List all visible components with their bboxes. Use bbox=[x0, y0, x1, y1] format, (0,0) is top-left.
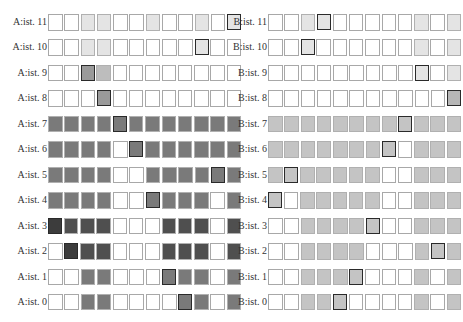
cell bbox=[447, 39, 462, 56]
cell bbox=[333, 116, 348, 133]
cell bbox=[97, 167, 112, 184]
cell-strip bbox=[268, 89, 463, 107]
row-label: B:ist. 9 bbox=[226, 64, 267, 82]
cell bbox=[113, 14, 128, 31]
cell bbox=[398, 14, 413, 31]
cell bbox=[210, 218, 225, 235]
cell bbox=[81, 294, 96, 311]
cell bbox=[162, 218, 177, 235]
cell bbox=[129, 243, 144, 260]
cell bbox=[301, 294, 316, 311]
cell bbox=[317, 243, 332, 260]
cell bbox=[81, 192, 96, 209]
cell bbox=[194, 269, 209, 286]
cell bbox=[162, 294, 177, 311]
cell bbox=[48, 167, 63, 184]
row-label: A:ist. 2 bbox=[0, 242, 47, 260]
grid-row: A:ist. 3 bbox=[0, 217, 226, 235]
cell bbox=[64, 39, 79, 56]
cell bbox=[113, 243, 128, 260]
cell bbox=[333, 192, 348, 209]
cell bbox=[284, 141, 299, 158]
cell bbox=[301, 243, 316, 260]
cell bbox=[316, 167, 331, 184]
cell bbox=[398, 141, 413, 158]
cell bbox=[349, 65, 364, 82]
cell bbox=[414, 192, 429, 209]
cell bbox=[382, 269, 397, 286]
cell bbox=[430, 218, 445, 235]
cell bbox=[178, 90, 193, 107]
cell-highlighted bbox=[398, 116, 412, 132]
cell-highlighted bbox=[415, 65, 429, 81]
cell bbox=[178, 243, 193, 260]
cell bbox=[398, 243, 413, 260]
cell bbox=[48, 141, 63, 158]
cell bbox=[146, 167, 161, 184]
cell bbox=[64, 294, 79, 311]
cell bbox=[113, 218, 128, 235]
row-label: B:ist. 1 bbox=[226, 268, 267, 286]
cell bbox=[414, 218, 429, 235]
cell bbox=[129, 192, 144, 209]
cell bbox=[113, 269, 128, 286]
cell bbox=[284, 116, 299, 133]
row-label: A:ist. 9 bbox=[0, 64, 47, 82]
row-label: A:ist. 4 bbox=[0, 191, 47, 209]
cell bbox=[414, 39, 429, 56]
cell-highlighted bbox=[317, 14, 331, 30]
cell bbox=[317, 218, 332, 235]
cell bbox=[300, 192, 315, 209]
cell bbox=[300, 167, 315, 184]
cell bbox=[64, 167, 79, 184]
cell bbox=[333, 90, 348, 107]
cell-highlighted bbox=[48, 218, 62, 234]
cell bbox=[317, 65, 332, 82]
cell bbox=[48, 14, 63, 31]
cell bbox=[210, 39, 225, 56]
row-label: B:ist. 7 bbox=[226, 115, 267, 133]
cell bbox=[414, 116, 429, 133]
cell bbox=[284, 14, 299, 31]
cell bbox=[145, 141, 160, 158]
cell bbox=[178, 167, 193, 184]
cell bbox=[382, 90, 397, 107]
cell bbox=[268, 39, 283, 56]
cell bbox=[64, 65, 79, 82]
cell bbox=[113, 65, 128, 82]
cell bbox=[316, 39, 331, 56]
cell bbox=[349, 141, 364, 158]
cell bbox=[80, 243, 95, 260]
cell bbox=[365, 294, 380, 311]
cell bbox=[97, 269, 112, 286]
cell bbox=[349, 243, 364, 260]
cell bbox=[447, 167, 462, 184]
grid-row: A:ist. 4 bbox=[0, 191, 226, 209]
cell bbox=[64, 90, 79, 107]
cell-strip bbox=[48, 115, 243, 133]
cell-highlighted bbox=[146, 192, 160, 208]
cell bbox=[430, 167, 445, 184]
grid-row: B:ist. 11 bbox=[226, 13, 453, 31]
cell bbox=[64, 141, 79, 158]
cell bbox=[414, 141, 429, 158]
cell bbox=[447, 294, 462, 311]
cell bbox=[113, 294, 128, 311]
cell bbox=[333, 218, 348, 235]
cell bbox=[349, 116, 364, 133]
cell bbox=[284, 243, 299, 260]
grid-row: A:ist. 11 bbox=[0, 13, 226, 31]
cell-strip bbox=[268, 166, 463, 184]
cell bbox=[210, 269, 225, 286]
cell bbox=[366, 116, 381, 133]
grid-row: B:ist. 0 bbox=[226, 293, 453, 311]
cell bbox=[210, 141, 225, 158]
cell bbox=[447, 269, 462, 286]
cell bbox=[146, 39, 161, 56]
cell bbox=[195, 14, 210, 31]
cell bbox=[129, 90, 144, 107]
cell bbox=[81, 14, 96, 31]
grid-row: A:ist. 0 bbox=[0, 293, 226, 311]
cell bbox=[430, 192, 445, 209]
cell bbox=[129, 65, 144, 82]
